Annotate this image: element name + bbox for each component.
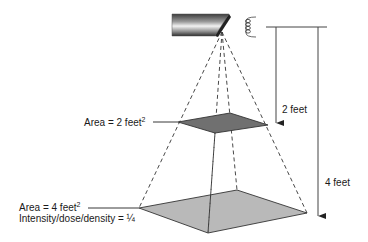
near-distance-label: 2 feet (282, 104, 307, 115)
far-distance-label: 4 feet (325, 177, 350, 188)
near-plane-square (178, 113, 268, 133)
filament-coil-icon (246, 17, 256, 37)
inverse-square-diagram: 2 feet 4 feet Area = 2 feet2 Area = 4 fe… (0, 0, 368, 242)
near-area-label: Area = 2 feet2 (84, 116, 146, 128)
far-intensity-label: Intensity/dose/density = ¼ (19, 213, 136, 224)
far-area-label: Area = 4 feet2 (19, 201, 81, 213)
far-plane-square (139, 190, 307, 233)
